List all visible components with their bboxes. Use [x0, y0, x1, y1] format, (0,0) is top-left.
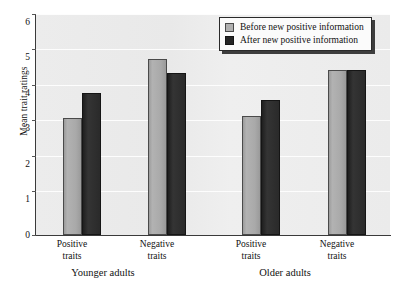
legend-swatch-before-icon — [225, 23, 234, 32]
bar-younger-negative-before — [148, 59, 167, 235]
x-label-line2: traits — [307, 251, 367, 263]
group-label-older-adults: Older adults — [225, 267, 345, 278]
y-tick-label-3: 3 — [16, 123, 30, 133]
x-label-line1: Negative — [307, 239, 367, 251]
y-tick-label-5: 5 — [16, 52, 30, 62]
y-tick-mark-0 — [32, 235, 36, 236]
gridline-6 — [36, 14, 390, 15]
y-tick-mark-3 — [32, 120, 36, 121]
x-label-line2: traits — [42, 251, 102, 263]
x-label-younger-positive: Positive traits — [42, 239, 102, 262]
group-label-younger-adults: Younger adults — [43, 267, 163, 278]
bar-younger-negative-after — [167, 73, 186, 235]
y-tick-mark-6 — [32, 14, 36, 15]
x-label-line1: Positive — [221, 239, 281, 251]
x-label-line2: traits — [221, 251, 281, 263]
y-tick-mark-5 — [32, 49, 36, 50]
y-tick-mark-2 — [32, 156, 36, 157]
y-tick-mark-1 — [32, 191, 36, 192]
legend-item-after: After new positive information — [225, 34, 364, 47]
legend-label-before: Before new positive information — [240, 22, 364, 33]
x-axis-line — [35, 235, 391, 236]
y-tick-label-6: 6 — [16, 17, 30, 27]
x-label-younger-negative: Negative traits — [127, 239, 187, 262]
bar-older-positive-after — [261, 100, 280, 235]
y-tick-label-4: 4 — [16, 88, 30, 98]
bar-younger-positive-before — [63, 118, 82, 235]
x-label-older-positive: Positive traits — [221, 239, 281, 262]
legend-label-after: After new positive information — [240, 35, 358, 46]
bar-younger-positive-after — [82, 93, 101, 235]
y-tick-label-2: 2 — [16, 159, 30, 169]
bar-older-negative-after — [347, 70, 366, 235]
x-label-line1: Negative — [127, 239, 187, 251]
x-label-older-negative: Negative traits — [307, 239, 367, 262]
x-label-line1: Positive — [42, 239, 102, 251]
bar-older-negative-before — [328, 70, 347, 235]
bar-older-positive-before — [242, 116, 261, 235]
y-tick-label-0: 0 — [16, 230, 30, 240]
y-axis-line — [35, 14, 36, 236]
x-label-line2: traits — [127, 251, 187, 263]
legend-swatch-after-icon — [225, 36, 234, 45]
y-tick-mark-4 — [32, 85, 36, 86]
legend-item-before: Before new positive information — [225, 21, 364, 34]
chart-figure: Mean trait ratings 6 5 4 3 2 1 0 — [0, 0, 402, 287]
chart-legend: Before new positive information After ne… — [219, 17, 372, 51]
y-tick-label-1: 1 — [16, 194, 30, 204]
